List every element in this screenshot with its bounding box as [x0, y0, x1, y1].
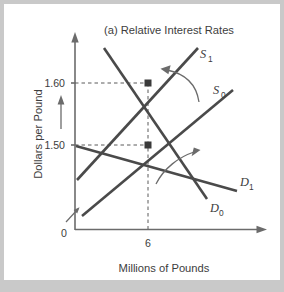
equilibrium-point-new [145, 80, 152, 87]
x-axis [75, 226, 267, 233]
y-tick-label-150: 1.50 [44, 139, 65, 151]
x-axis-arrowhead [257, 226, 268, 233]
y-tick-label-160: 1.60 [44, 77, 65, 89]
curve-label-d0-text: D [209, 201, 219, 215]
curve-label-s0-text: S [213, 83, 219, 97]
curve-label-d0-sub: 0 [219, 208, 224, 218]
curve-label-d1-sub: 1 [249, 182, 254, 192]
curve-label-d1-text: D [239, 175, 249, 189]
x-axis-title: Millions of Pounds [119, 262, 210, 274]
curve-label-s1-text: S [200, 47, 206, 61]
chart-title: (a) Relative Interest Rates [104, 24, 234, 36]
x-tick-label-6: 6 [145, 237, 151, 249]
equilibrium-point-initial [145, 142, 152, 149]
y-axis-title: Dollars per Pound [32, 89, 44, 179]
curve-label-s0: S 0 [213, 83, 226, 100]
curve-label-s0-sub: 0 [221, 90, 226, 100]
curve-label-d1: D 1 [239, 175, 254, 192]
price-increase-arrow [58, 95, 65, 129]
figure-panel: (a) Relative Interest Rates [4, 4, 280, 280]
curve-label-s1-sub: 1 [208, 54, 213, 64]
axis-break-mark [66, 207, 80, 222]
y-axis-arrowhead [71, 32, 78, 43]
curve-label-s1: S 1 [200, 47, 213, 64]
curve-label-d0: D 0 [209, 201, 224, 218]
origin-label: 0 [61, 227, 67, 239]
y-axis [71, 32, 78, 230]
supply-demand-chart: (a) Relative Interest Rates [4, 4, 280, 280]
